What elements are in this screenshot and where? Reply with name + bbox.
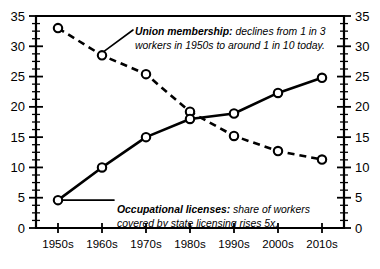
annotation-union-line1: Union membership: declines from 1 in 3 — [135, 25, 326, 39]
annotation-licenses-text1: share of workers — [230, 204, 310, 215]
svg-text:10: 10 — [355, 160, 369, 175]
svg-text:30: 30 — [11, 39, 25, 54]
svg-text:30: 30 — [355, 39, 369, 54]
annotation-union-text1: declines from 1 in 3 — [233, 26, 326, 37]
y-axis-right-labels: 05101520253035 — [355, 9, 369, 236]
svg-text:15: 15 — [355, 130, 369, 145]
svg-text:5: 5 — [18, 190, 25, 205]
svg-text:10: 10 — [11, 160, 25, 175]
chart-container: 05101520253035 05101520253035 1950s1960s… — [0, 0, 380, 269]
svg-text:1970s: 1970s — [130, 238, 162, 250]
svg-text:1950s: 1950s — [42, 238, 74, 250]
svg-text:20: 20 — [11, 99, 25, 114]
annotation-union-membership: Union membership: declines from 1 in 3 w… — [135, 25, 326, 53]
svg-text:25: 25 — [11, 69, 25, 84]
annotation-occupational-licenses: Occupational licenses: share of workers … — [117, 203, 310, 231]
svg-text:1990s: 1990s — [218, 238, 250, 250]
annotation-licenses-lead: Occupational licenses: — [117, 204, 230, 215]
annotation-union-lead: Union membership: — [135, 26, 233, 37]
svg-text:35: 35 — [11, 9, 25, 24]
svg-text:1980s: 1980s — [174, 238, 206, 250]
x-axis-category-labels: 1950s1960s1970s1980s1990s2000s2010s — [42, 238, 338, 250]
annotation-union-line2: workers in 1950s to around 1 in 10 today… — [135, 39, 326, 53]
annotation-licenses-line1: Occupational licenses: share of workers — [117, 203, 310, 217]
svg-text:25: 25 — [355, 69, 369, 84]
svg-text:5: 5 — [355, 190, 362, 205]
svg-text:2010s: 2010s — [306, 238, 338, 250]
svg-text:2000s: 2000s — [262, 238, 294, 250]
svg-text:0: 0 — [355, 221, 362, 236]
y-axis-left-labels: 05101520253035 — [11, 9, 25, 236]
svg-text:0: 0 — [18, 221, 25, 236]
svg-text:20: 20 — [355, 99, 369, 114]
svg-text:35: 35 — [355, 9, 369, 24]
svg-text:1960s: 1960s — [86, 238, 118, 250]
svg-text:15: 15 — [11, 130, 25, 145]
annotation-licenses-line2: covered by state licensing rises 5x. — [117, 217, 310, 231]
